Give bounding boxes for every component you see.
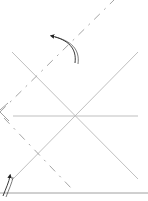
fold-arrow-upper-outline [55, 37, 78, 64]
valley-fold-lines [0, 0, 114, 189]
crease-lines [12, 52, 138, 180]
fold-diagram [0, 0, 148, 201]
left-corner-edge-b [0, 112, 9, 121]
left-corner-edge-a [0, 103, 8, 110]
fold-arrows [3, 36, 78, 197]
fold-arrow-lower-outline [6, 177, 13, 197]
valley-fold-upper [0, 0, 114, 112]
